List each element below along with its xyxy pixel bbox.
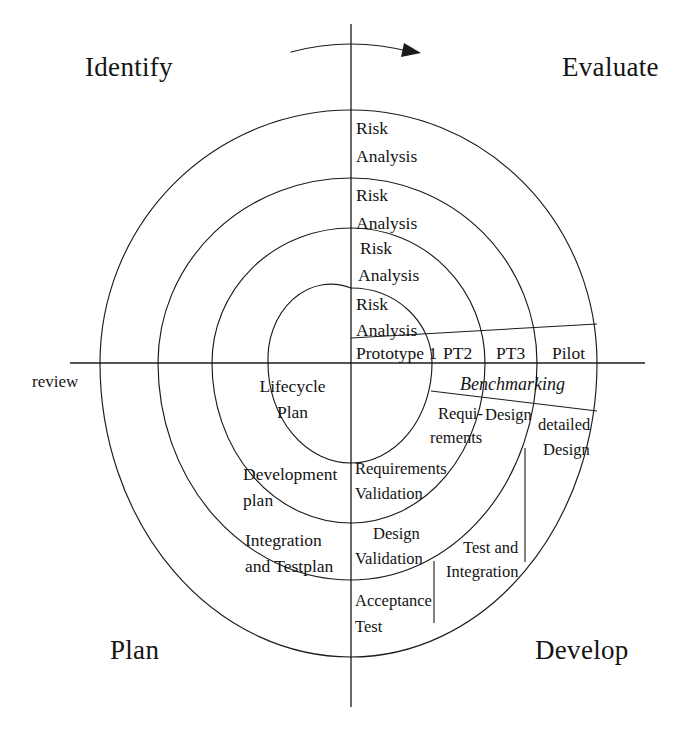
prototype-label-pilot: Pilot (552, 343, 585, 363)
risk-analysis-label-1-line2: Analysis (356, 320, 417, 340)
label-layer: Identify Evaluate Plan Develop review Ri… (0, 0, 681, 745)
plan-label-lifecycle-line1: Lifecycle (240, 376, 345, 396)
validation-label-requirements-line2: Validation (355, 484, 423, 503)
plan-label-development-line2: plan (243, 490, 273, 510)
validation-label-acceptance-line1: Acceptance (355, 591, 432, 610)
validation-label-requirements-line1: Requirements (355, 459, 447, 478)
risk-analysis-label-4-line2: Analysis (356, 146, 417, 166)
plan-label-lifecycle-line2: Plan (240, 402, 345, 422)
develop-label-test-integration-line2: Integration (446, 562, 518, 581)
develop-label-requirements-line2: rements (430, 428, 482, 447)
quadrant-label-plan: Plan (110, 635, 159, 666)
plan-label-integration-line1: Integration (245, 530, 322, 550)
quadrant-label-evaluate: Evaluate (562, 52, 659, 83)
develop-label-requirements-line1: Requi- (438, 404, 483, 423)
risk-analysis-label-4-line1: Risk (356, 118, 388, 138)
validation-label-acceptance-line2: Test (355, 617, 382, 636)
risk-analysis-label-1-line1: Risk (356, 294, 388, 314)
prototype-label-pt2: PT2 (443, 343, 472, 363)
risk-analysis-label-2-line1: Risk (360, 238, 392, 258)
develop-label-test-integration-line1: Test and (463, 538, 518, 557)
develop-label-detailed-design-line2: Design (543, 440, 590, 459)
spiral-model-diagram: Identify Evaluate Plan Develop review Ri… (0, 0, 681, 745)
axis-label-review: review (32, 372, 78, 392)
develop-label-benchmarking: Benchmarking (460, 374, 565, 395)
quadrant-label-identify: Identify (85, 52, 173, 83)
quadrant-label-develop: Develop (535, 635, 629, 666)
develop-label-design: Design (485, 405, 532, 424)
risk-analysis-label-3-line1: Risk (356, 185, 388, 205)
validation-label-design-line2: Validation (355, 549, 423, 568)
develop-label-detailed-design-line1: detailed (538, 415, 590, 434)
plan-label-development-line1: Development (243, 464, 337, 484)
risk-analysis-label-3-line2: Analysis (356, 213, 417, 233)
risk-analysis-label-2-line2: Analysis (358, 265, 419, 285)
prototype-label-pt3: PT3 (496, 343, 525, 363)
validation-label-design-line1: Design (373, 524, 420, 543)
prototype-label-1: Prototype 1 (356, 343, 437, 363)
plan-label-integration-line2: and Testplan (245, 556, 333, 576)
